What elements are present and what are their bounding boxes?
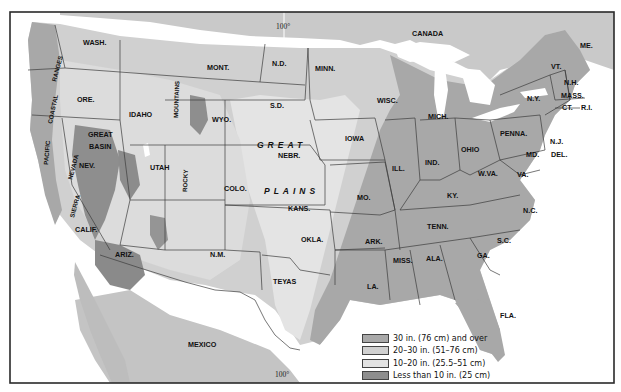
state-label-fla: FLA. [500, 311, 516, 320]
state-label-ny: N.Y. [527, 94, 540, 103]
state-label-ohio: OHIO [461, 145, 480, 154]
state-label-okla: OKLA. [301, 235, 323, 244]
region-label-great-basin-2: BASIN [89, 142, 111, 151]
state-label-idaho: IDAHO [129, 110, 153, 119]
country-label-mexico: MEXICO [188, 340, 217, 349]
state-label-nebr: NEBR. [278, 151, 300, 160]
state-label-texas: TEYAS [273, 277, 297, 286]
state-label-sc: S.C. [497, 236, 511, 245]
state-label-ore: ORE. [77, 95, 95, 104]
state-label-ala: ALA. [426, 254, 443, 263]
state-label-miss: MISS. [393, 256, 413, 265]
region-label-great: GREAT [257, 140, 306, 150]
state-label-ga: GA. [477, 251, 490, 260]
legend-swatch-30-plus [362, 334, 389, 343]
meridian-label-bottom: 100° [275, 370, 289, 379]
legend-item: 10–20 in. (25.5–51 cm) [362, 357, 612, 370]
state-label-me: ME. [580, 41, 593, 50]
legend-label: 10–20 in. (25.5–51 cm) [393, 359, 485, 368]
state-label-wyo: WYO. [212, 115, 231, 124]
state-label-va: VA. [517, 170, 528, 179]
region-label-plains: PLAINS [264, 186, 319, 196]
legend-item: 20–30 in. (51–76 cm) [362, 345, 612, 358]
legend-swatch-10-20 [362, 359, 389, 368]
state-label-tenn: TENN. [427, 222, 449, 231]
state-label-vt: VT. [551, 62, 561, 71]
legend-swatch-20-30 [362, 346, 389, 355]
legend-item: 30 in. (76 cm) and over [362, 332, 612, 345]
country-label-canada: CANADA [412, 29, 443, 38]
state-label-del: DEL. [551, 150, 567, 159]
state-label-wva: W.VA. [478, 169, 498, 178]
state-label-ind: IND. [425, 158, 439, 167]
state-label-kans: KANS. [288, 204, 310, 213]
legend-label: Less than 10 in. (25 cm) [393, 371, 490, 380]
state-label-penna: PENNA. [500, 129, 527, 138]
state-label-ill: ILL. [392, 164, 405, 173]
legend: 30 in. (76 cm) and over 20–30 in. (51–76… [362, 332, 612, 382]
legend-item: Less than 10 in. (25 cm) [362, 370, 612, 383]
legend-swatch-under-10 [362, 371, 389, 380]
legend-label: 20–30 in. (51–76 cm) [393, 346, 478, 355]
state-label-la: LA. [367, 282, 379, 291]
state-label-ky: KY. [447, 191, 458, 200]
state-label-ariz: ARIZ. [115, 250, 134, 259]
state-label-mich: MICH. [428, 112, 448, 121]
state-label-calif: CALIF. [75, 225, 97, 234]
state-label-nj: N.J. [550, 137, 563, 146]
state-label-nc: N.C. [523, 206, 537, 215]
state-label-colo: COLO. [224, 184, 247, 193]
state-label-nh: N.H. [564, 78, 578, 87]
region-label-rocky: ROCKY [181, 169, 189, 192]
state-label-md: MD. [526, 150, 539, 159]
legend-label: 30 in. (76 cm) and over [393, 334, 487, 343]
region-label-great-basin-1: GREAT [88, 130, 113, 139]
state-label-wash: WASH. [83, 38, 107, 47]
state-label-ri: R.I. [581, 103, 592, 112]
meridian-label-top: 100° [276, 22, 290, 31]
state-label-wisc: WISC. [377, 96, 398, 105]
state-label-mont: MONT. [207, 63, 229, 72]
state-label-mass: MASS. [561, 91, 584, 100]
region-label-mountains: MOUNTAINS [172, 81, 180, 118]
state-label-utah: UTAH [150, 163, 169, 172]
state-label-ark: ARK. [365, 237, 383, 246]
state-label-nev: NEV. [79, 161, 95, 170]
state-label-minn: MINN. [315, 64, 335, 73]
state-label-nd: N.D. [272, 59, 286, 68]
state-label-mo: MO. [357, 193, 371, 202]
state-label-nm: N.M. [210, 250, 225, 259]
state-label-ct: CT. [562, 103, 573, 112]
state-label-sd: S.D. [270, 101, 284, 110]
state-label-iowa: IOWA [345, 134, 364, 143]
